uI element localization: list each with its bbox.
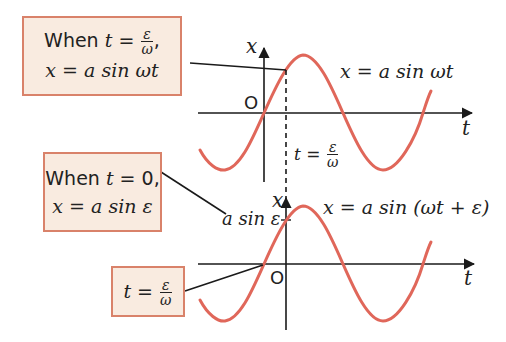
callout-box-middle: When t = 0, x = a sin ε — [43, 152, 162, 232]
fraction-epsilon-omega: εω — [160, 278, 172, 307]
var-t: t — [294, 144, 301, 164]
text-when: When — [45, 167, 106, 189]
var-t: t — [123, 280, 131, 302]
bottom-origin-label: O — [270, 267, 284, 288]
callout-top-line2: x = a sin ωt — [24, 56, 180, 84]
frac-den: ω — [160, 293, 171, 307]
frac-num: ε — [160, 278, 172, 293]
frac-num: ε — [141, 27, 153, 42]
top-t-axis-label: t — [462, 116, 470, 140]
var-t: t — [106, 167, 114, 189]
equals: = — [301, 144, 326, 164]
bottom-curve-label: x = a sin (ωt + ε) — [323, 196, 489, 218]
dash-label: t = εω — [294, 140, 339, 169]
callout-middle-line2: x = a sin ε — [45, 192, 160, 220]
frac-den: ω — [327, 155, 338, 169]
text-when: When — [44, 29, 105, 51]
equals: = — [131, 280, 159, 302]
intercept-label: a sin ε — [222, 208, 280, 229]
top-x-axis-label: x — [246, 34, 257, 58]
bottom-leader-line — [185, 265, 263, 291]
comma: , — [154, 29, 160, 51]
callout-box-top: When t = εω, x = a sin ωt — [22, 16, 182, 96]
frac-den: ω — [141, 42, 152, 56]
callout-middle-line1: When t = 0, — [45, 164, 160, 192]
frac-num: ε — [327, 140, 339, 155]
middle-leader-line — [161, 172, 226, 214]
equals-zero: = 0, — [114, 167, 160, 189]
callout-top-line1: When t = εω, — [24, 26, 180, 56]
top-leader-line — [190, 63, 286, 70]
equals: = — [112, 29, 140, 51]
fraction-epsilon-omega: εω — [327, 140, 339, 169]
bottom-t-axis-label: t — [464, 266, 472, 290]
fraction-epsilon-omega: εω — [141, 27, 153, 56]
callout-bottom-line: t = εω — [113, 277, 183, 307]
callout-box-bottom: t = εω — [111, 266, 185, 317]
top-curve-label: x = a sin ωt — [340, 60, 453, 82]
top-origin-label: O — [244, 92, 258, 113]
